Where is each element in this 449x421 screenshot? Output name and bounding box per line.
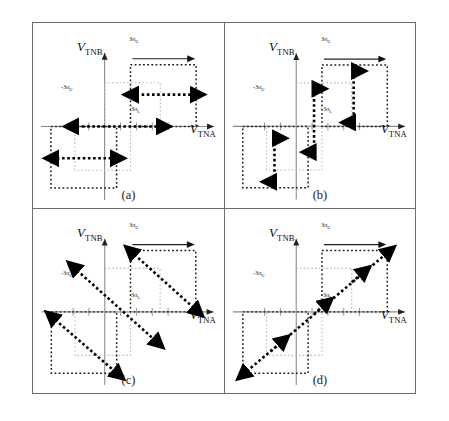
sigma-rule-upper — [132, 241, 194, 248]
panel-caption: (b) — [225, 188, 415, 203]
x-axis-label: VTNA — [190, 307, 216, 325]
panel-d-plot — [225, 209, 415, 393]
panel-c-plot — [33, 209, 224, 393]
sigma-lower-label: 3σL — [131, 291, 140, 300]
sigma-negative-label: -3σU — [61, 269, 72, 278]
sigma-negative-label: -3σU — [61, 83, 72, 92]
y-axis-label: VTNB — [77, 225, 103, 243]
panel-b-plot — [225, 23, 415, 208]
panel-b: VTNB VTNA 3σU 3σL -3σU (b) — [224, 23, 415, 208]
sigma-rule-upper — [132, 55, 195, 62]
panel-a-plot — [33, 23, 224, 208]
panel-caption: (d) — [225, 373, 415, 388]
panel-caption: (c) — [33, 373, 224, 388]
panel-caption: (a) — [33, 188, 224, 203]
x-axis-label: VTNA — [381, 307, 407, 325]
sigma-upper-label: 3σU — [321, 221, 330, 230]
sigma-upper-label: 3σU — [129, 35, 138, 44]
panel-a: VTNB VTNA 3σU 3σL -3σU (a) — [33, 23, 224, 208]
sigma-rule-upper — [324, 241, 386, 248]
sigma-upper-label: 3σU — [321, 35, 330, 44]
figure-container: VTNB VTNA 3σU 3σL -3σU (a) — [32, 22, 416, 394]
panel-c: VTNB VTNA 3σU 3σL -3σU (c) — [33, 208, 224, 393]
x-axis-label: VTNA — [381, 121, 407, 139]
sigma-upper-label: 3σU — [129, 221, 138, 230]
sigma-negative-label: -3σU — [253, 83, 264, 92]
sigma-lower-label: 3σL — [323, 291, 332, 300]
sigma-negative-label: -3σU — [253, 269, 264, 278]
vector-arrows — [247, 255, 385, 372]
sigma-lower-label: 3σL — [323, 105, 332, 114]
x-axis-label: VTNA — [190, 121, 216, 139]
y-axis-label: VTNB — [269, 39, 295, 57]
vector-arrows — [55, 255, 193, 372]
panel-d: VTNB VTNA 3σU 3σL -3σU (d) — [224, 208, 415, 393]
y-axis-label: VTNB — [77, 39, 103, 57]
sigma-lower-label: 3σL — [131, 105, 140, 114]
sigma-rule-upper — [324, 56, 386, 63]
y-axis-label: VTNB — [269, 225, 295, 243]
